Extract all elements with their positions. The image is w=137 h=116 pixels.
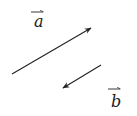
vector-b-label: b (111, 92, 121, 111)
vector-b: b (63, 65, 121, 111)
vector-a-label: a (34, 12, 44, 31)
vector-diagram: a b (0, 0, 137, 116)
vector-a-arrow (12, 28, 91, 74)
vector-b-arrow (63, 65, 101, 88)
vector-a: a (12, 12, 91, 74)
